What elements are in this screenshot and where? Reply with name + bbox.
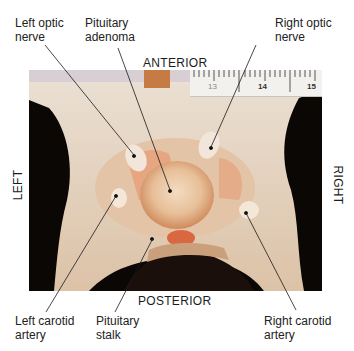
label-right-optic-nerve: Right optic nerve: [275, 16, 332, 44]
label-left-carotid-artery: Left carotid artery: [15, 314, 74, 342]
orientation-left: LEFT: [11, 165, 25, 205]
orientation-posterior: POSTERIOR: [138, 294, 211, 308]
orientation-anterior: ANTERIOR: [143, 56, 207, 70]
label-pituitary-adenoma: Pituitary adenoma: [85, 16, 135, 44]
ruler-tick-15: 15: [307, 82, 316, 91]
specimen-illustration: [29, 70, 322, 291]
ruler-tick-14: 14: [258, 82, 267, 91]
orientation-right: RIGHT: [331, 165, 345, 205]
specimen-photo: [29, 70, 322, 291]
label-right-carotid-artery: Right carotid artery: [264, 314, 331, 342]
scale-ruler: 13 14 15: [190, 70, 322, 97]
label-pituitary-stalk: Pituitary stalk: [96, 314, 139, 342]
label-left-optic-nerve: Left optic nerve: [15, 16, 64, 44]
ruler-tick-13: 13: [208, 82, 217, 91]
